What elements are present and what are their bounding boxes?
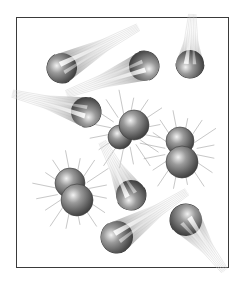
atom [119,110,149,140]
diatomic-molecule [166,127,198,178]
particle-scene [0,0,243,289]
atom [61,184,93,216]
teardrop-particle [164,198,238,281]
teardrop-particle [175,13,206,78]
diatomic-molecule [55,168,93,216]
atom [166,146,198,178]
diatomic-molecule [108,110,149,149]
